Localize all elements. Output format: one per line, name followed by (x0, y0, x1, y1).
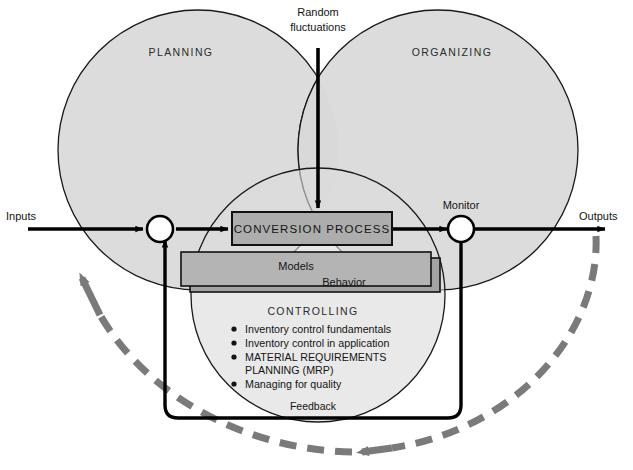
management-process-diagram: Random fluctuations PLANNING ORGANIZING … (0, 0, 633, 470)
bullet-dot (231, 354, 236, 359)
conversion-process-label: CONVERSION PROCESS (234, 223, 391, 235)
bullet-item-4: Managing for quality (245, 378, 342, 390)
bullet-item-1: Inventory control in application (245, 337, 389, 349)
monitor-node (448, 216, 474, 242)
random-fluctuations-label-line2: fluctuations (290, 21, 346, 33)
inputs-label: Inputs (6, 210, 36, 222)
summing-junction-node (147, 216, 173, 242)
random-fluctuations-label-line1: Random (297, 6, 339, 18)
bullet-dot (231, 340, 236, 345)
monitor-label: Monitor (443, 199, 480, 211)
outputs-label: Outputs (579, 210, 618, 222)
bullet-item-2: MATERIAL REQUIREMENTS (245, 351, 386, 363)
feedback-label: Feedback (290, 400, 337, 412)
bullet-item-0: Inventory control fundamentals (245, 323, 391, 335)
models-label: Models (278, 260, 314, 272)
diagram-canvas: Random fluctuations PLANNING ORGANIZING … (0, 0, 633, 470)
circle-planning-label: PLANNING (149, 46, 214, 58)
bullet-dot (231, 381, 236, 386)
bullet-item-3: PLANNING (MRP) (245, 364, 333, 376)
circle-organizing-label: ORGANIZING (412, 46, 493, 58)
behavior-label: Behavior (322, 276, 366, 288)
bullet-dot (231, 326, 236, 331)
circle-controlling-label: CONTROLLING (267, 305, 358, 317)
